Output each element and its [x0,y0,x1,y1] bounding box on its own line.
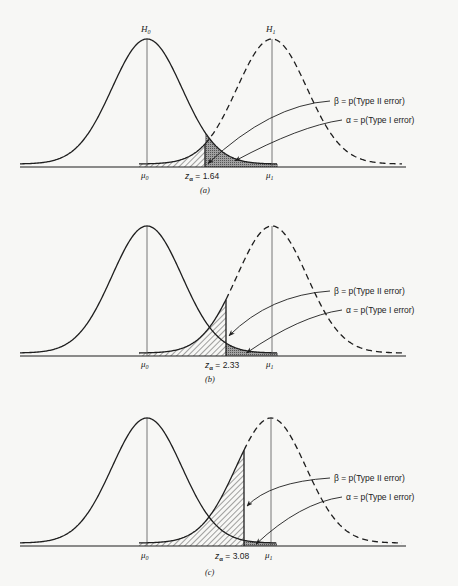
beta-arrow [229,291,330,336]
beta-region [139,450,244,546]
h1-label: H1 [265,24,276,35]
mu0-label: μ0 [140,550,149,561]
mu1-label: μ1 [265,359,274,370]
panel-b: μ0 μ1 zα = 2.33 (b) β = p(Type II error)… [20,226,415,384]
h0-distribution-curve [20,226,277,353]
panel-a: H0 H1 μ0 μ1 zα = 1.64 (a) β = p(Type II … [20,24,415,195]
alpha-label: α = p(Type I error) [346,115,415,125]
alpha-region [205,132,278,167]
critical-z-label: zα = 1.64 [184,171,219,182]
panel-caption: (b) [205,374,215,384]
critical-z-label: zα = 3.08 [214,551,249,562]
hypothesis-test-figure: H0 H1 μ0 μ1 zα = 1.64 (a) β = p(Type II … [0,0,458,586]
h0-distribution-curve [20,39,277,164]
critical-z-label: zα = 2.33 [204,360,239,371]
panel-caption: (c) [205,567,215,577]
alpha-label: α = p(Type I error) [346,492,415,502]
mu0-label: μ0 [140,359,149,370]
h0-label: H0 [140,24,151,35]
mu0-label: μ0 [140,170,149,181]
mu1-label: μ1 [265,170,274,181]
panel-c: μ0 μ1 zα = 3.08 (c) β = p(Type II error)… [20,418,415,577]
panel-caption: (a) [200,185,210,195]
beta-label: β = p(Type II error) [334,96,405,106]
beta-label: β = p(Type II error) [334,286,405,296]
beta-label: β = p(Type II error) [334,473,405,483]
alpha-arrow [247,310,342,353]
alpha-arrow [256,497,342,544]
mu1-label: μ1 [264,550,273,561]
alpha-label: α = p(Type I error) [346,305,415,315]
